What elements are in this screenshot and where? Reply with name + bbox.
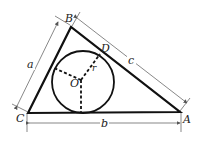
dimension-a [12, 16, 70, 112]
vertex-label-c: C [16, 112, 25, 125]
center-label-o: O [70, 77, 79, 90]
vertex-label-a: A [182, 113, 191, 126]
triangle-abc [28, 27, 180, 113]
triangle-incircle-diagram: B C A D O r a c b [0, 0, 200, 143]
side-label-c: c [128, 54, 134, 67]
tangent-label-d: D [100, 42, 110, 55]
vertex-label-b: B [64, 12, 73, 25]
side-label-a: a [27, 58, 34, 71]
radius-label-r: r [92, 63, 97, 73]
radius-to-d [81, 54, 100, 80]
incircle [52, 51, 114, 113]
side-label-b: b [101, 117, 108, 130]
